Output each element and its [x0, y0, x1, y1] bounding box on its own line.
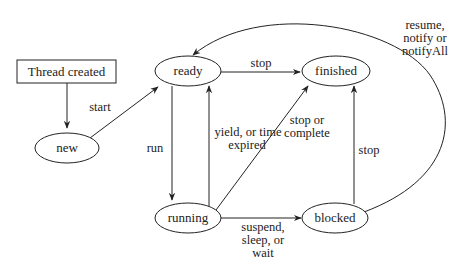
- node-finished-label: finished: [315, 63, 357, 78]
- node-finished: finished: [302, 56, 370, 86]
- node-ready: ready: [155, 56, 221, 86]
- edge-label-suspend-line2: sleep, or: [242, 233, 285, 247]
- node-new: new: [35, 133, 99, 163]
- node-ready-label: ready: [174, 63, 203, 78]
- node-new-label: new: [56, 140, 78, 155]
- edge-label-start: start: [89, 100, 111, 114]
- edge-label-resume-line1: resume,: [405, 18, 444, 32]
- edge-label-blocked-stop: stop: [359, 143, 380, 157]
- node-blocked: blocked: [302, 203, 368, 233]
- thread-state-diagram: Thread created new ready finished runnin…: [0, 0, 459, 270]
- node-blocked-label: blocked: [314, 210, 356, 225]
- edge-label-ready-stop: stop: [251, 56, 272, 70]
- node-running: running: [155, 203, 221, 233]
- node-thread-created-label: Thread created: [28, 64, 106, 79]
- edge-label-suspend-line3: wait: [252, 246, 274, 260]
- edge-label-resume-line3: notifyAll: [402, 44, 448, 58]
- edge-label-stop-or-complete-line1: stop or: [290, 113, 325, 127]
- edge-label-run: run: [147, 141, 164, 155]
- edge-label-yield-line2: expired: [228, 138, 266, 152]
- edge-label-yield-line1: yield, or time: [215, 125, 282, 139]
- node-running-label: running: [168, 210, 209, 225]
- edge-label-stop-or-complete-line2: complete: [284, 126, 330, 140]
- edge-label-resume-line2: notify or: [403, 31, 447, 45]
- edge-label-suspend-line1: suspend,: [241, 220, 284, 234]
- node-thread-created: Thread created: [17, 60, 116, 83]
